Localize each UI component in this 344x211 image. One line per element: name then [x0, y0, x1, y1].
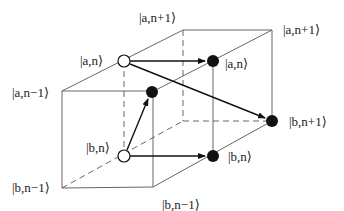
- label-a-n-filled: |a,n⟩: [225, 56, 248, 71]
- transition-arrows: [127, 61, 265, 156]
- state-nodes: [118, 55, 278, 162]
- filled-node-corner: [146, 86, 158, 98]
- label-b-n-minus-1-left: |b,n−1⟩: [12, 180, 50, 195]
- open-node-b-n: [118, 150, 130, 162]
- filled-node-a-n: [207, 55, 219, 67]
- open-node-a-n: [118, 55, 130, 67]
- label-a-n-plus-1-right: |a,n+1⟩: [283, 22, 320, 37]
- state-labels: |a,n+1⟩ |a,n+1⟩ |a,n⟩ |a,n⟩ |a,n−1⟩ |b,n…: [12, 10, 327, 211]
- filled-node-b-n: [207, 150, 219, 162]
- label-b-n-minus-1-bottom: |b,n−1⟩: [162, 197, 200, 211]
- label-b-n-filled: |b,n⟩: [228, 149, 252, 164]
- cube-state-diagram: |a,n+1⟩ |a,n+1⟩ |a,n⟩ |a,n⟩ |a,n−1⟩ |b,n…: [0, 0, 344, 211]
- label-a-n-open: |a,n⟩: [80, 53, 103, 68]
- label-b-n-plus-1: |b,n+1⟩: [289, 114, 327, 129]
- label-a-n-minus-1: |a,n−1⟩: [12, 85, 49, 100]
- label-a-n-plus-1-top: |a,n+1⟩: [139, 10, 176, 25]
- label-b-n-open: |b,n⟩: [86, 140, 110, 155]
- filled-node-b-n-plus-1: [266, 115, 278, 127]
